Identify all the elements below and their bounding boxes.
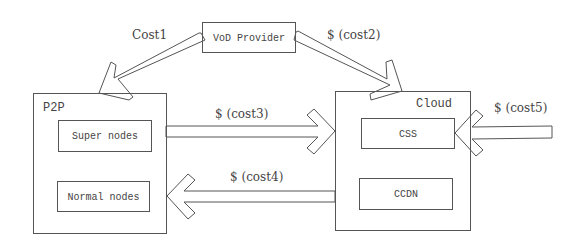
diagram: VoD Provider P2P Super nodes Normal node… — [0, 0, 582, 248]
edge-label-cost1: Cost1 — [132, 28, 167, 42]
ccdn-box: CCDN — [359, 178, 453, 210]
cloud-box — [335, 91, 471, 231]
normal-nodes-box: Normal nodes — [57, 181, 150, 212]
edge-label-cost5: $ (cost5) — [494, 101, 547, 115]
cloud-label: Cloud — [416, 97, 452, 111]
super-nodes-box: Super nodes — [58, 120, 152, 152]
css-label: CSS — [362, 128, 454, 139]
edge-label-cost4: $ (cost4) — [230, 170, 283, 184]
edge-label-cost3: $ (cost3) — [215, 107, 268, 121]
edge-label-cost2: $ (cost2) — [327, 28, 380, 42]
ccdn-label: CCDN — [360, 189, 452, 200]
css-box: CSS — [361, 118, 455, 149]
vod-provider-label: VoD Provider — [203, 32, 295, 43]
vod-provider-box: VoD Provider — [202, 22, 296, 53]
arrow-cost1 — [99, 33, 205, 100]
normal-nodes-label: Normal nodes — [58, 191, 149, 202]
p2p-label: P2P — [43, 101, 65, 115]
super-nodes-label: Super nodes — [59, 131, 151, 142]
